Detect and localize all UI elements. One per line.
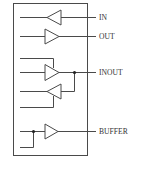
buffer-junction-dot-icon: [32, 130, 35, 133]
inout-enable-wire-bottom: [20, 96, 54, 108]
port-label-in: IN: [99, 13, 108, 22]
out-buffer-triangle-icon: [45, 29, 59, 44]
buffer-feedback-wire: [20, 132, 34, 148]
inout-feedback-wire: [61, 73, 75, 92]
port-label-buffer: BUFFER: [99, 127, 129, 136]
in-buffer-triangle-icon: [47, 10, 61, 25]
io-cell-diagram: IN OUT INOUT BUFFER: [0, 0, 141, 172]
port-label-inout: INOUT: [99, 68, 123, 77]
port-label-out: OUT: [99, 32, 115, 41]
port-in: [20, 10, 96, 25]
inout-output-triangle-icon: [45, 65, 59, 81]
buffer-triangle-icon: [45, 124, 58, 139]
port-inout: [20, 59, 96, 108]
inout-junction-dot-icon: [73, 71, 76, 74]
port-buffer: [20, 124, 96, 148]
port-out: [20, 29, 96, 44]
